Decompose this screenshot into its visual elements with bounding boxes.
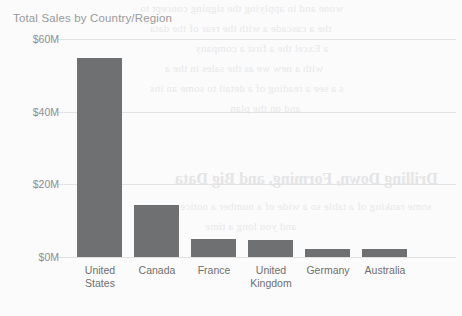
bar-canada[interactable] [134,205,179,257]
x-axis-label-australia: Australia [354,264,416,277]
x-axis-label-united-kingdom: United Kingdom [240,264,302,290]
y-axis-tick-label: $0M [7,251,59,263]
bar-germany[interactable] [305,249,350,257]
x-axis-label-germany: Germany [297,264,359,277]
chart-title: Total Sales by Country/Region [13,12,172,24]
bar-chart: Total Sales by Country/Region $60M $40M … [0,0,462,316]
bar-france[interactable] [191,239,236,257]
y-axis-tick-label: $20M [7,178,59,190]
x-axis-label-france: France [183,264,245,277]
bar-united-states[interactable] [77,58,122,257]
y-axis-tick-label: $40M [7,106,59,118]
bar-australia[interactable] [362,249,407,257]
gridline-60m [57,39,456,40]
bar-united-kingdom[interactable] [248,240,293,257]
axis-baseline [57,257,456,258]
x-axis-label-united-states: United States [69,264,131,290]
x-axis-label-canada: Canada [126,264,188,277]
y-axis-tick-label: $60M [7,33,59,45]
